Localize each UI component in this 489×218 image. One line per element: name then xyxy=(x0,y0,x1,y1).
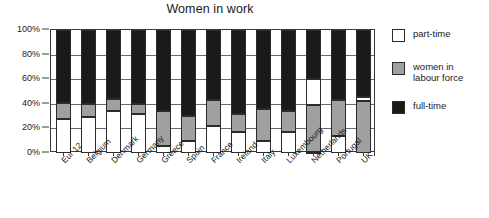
bar-segment[interactable] xyxy=(331,30,347,100)
y-tick-mark xyxy=(42,78,49,79)
bar-segment[interactable] xyxy=(181,30,197,116)
chart-container: Women in work 0%20%40%60%80%100% Eur 12B… xyxy=(0,0,489,218)
bar-segment[interactable] xyxy=(306,30,322,79)
x-tick-label: UK xyxy=(359,150,374,165)
bar-segment[interactable] xyxy=(81,104,97,118)
y-tick-mark xyxy=(42,53,49,54)
y-tick-mark xyxy=(42,127,49,128)
legend-label: full-time xyxy=(413,100,446,111)
bar-segment[interactable] xyxy=(106,30,122,99)
bar-segment[interactable] xyxy=(156,30,172,111)
bar-stack xyxy=(356,30,372,151)
bar-stack xyxy=(81,30,97,151)
legend-swatch-icon xyxy=(392,101,405,114)
legend-swatch-icon xyxy=(392,29,405,42)
y-tick-mark xyxy=(42,29,49,30)
bar-segment[interactable] xyxy=(131,30,147,104)
bar-stack xyxy=(181,30,197,151)
bar-group[interactable] xyxy=(106,30,122,151)
bar-group[interactable] xyxy=(281,30,297,151)
legend-item[interactable]: women in labour force xyxy=(392,61,463,83)
bar-segment[interactable] xyxy=(281,111,297,132)
bar-segment[interactable] xyxy=(256,30,272,109)
bar-segment[interactable] xyxy=(56,103,72,119)
bar-group[interactable] xyxy=(256,30,272,151)
bar-segment[interactable] xyxy=(131,104,147,114)
bar-group[interactable] xyxy=(56,30,72,151)
bar-segment[interactable] xyxy=(81,30,97,104)
bar-group[interactable] xyxy=(206,30,222,151)
bar-stack xyxy=(281,30,297,151)
bar-segment[interactable] xyxy=(281,30,297,111)
bar-stack xyxy=(106,30,122,151)
bar-segment[interactable] xyxy=(206,30,222,100)
legend-label: part-time xyxy=(413,28,450,39)
bar-segment[interactable] xyxy=(231,114,247,132)
bar-stack xyxy=(206,30,222,151)
bar-segment[interactable] xyxy=(181,116,197,141)
chart-title: Women in work xyxy=(60,2,360,16)
bar-segment[interactable] xyxy=(106,99,122,110)
y-tick-label: 100% xyxy=(17,24,40,34)
y-tick-label: 20% xyxy=(22,122,40,132)
y-tick-label: 40% xyxy=(22,98,40,108)
bar-segment[interactable] xyxy=(206,100,222,126)
legend-item[interactable]: part-time xyxy=(392,28,450,42)
y-tick-label: 80% xyxy=(22,49,40,59)
bar-stack xyxy=(231,30,247,151)
x-tick-mark xyxy=(374,152,375,156)
bar-group[interactable] xyxy=(81,30,97,151)
y-tick-mark xyxy=(42,152,49,153)
legend-swatch-icon xyxy=(392,62,405,75)
bar-group[interactable] xyxy=(231,30,247,151)
plot-area xyxy=(50,29,375,152)
bar-series-group xyxy=(51,30,374,151)
bar-segment[interactable] xyxy=(306,79,322,105)
y-tick-mark xyxy=(42,102,49,103)
y-tick-label: 0% xyxy=(27,147,40,157)
y-tick-label: 60% xyxy=(22,73,40,83)
x-axis: Eur 12BelgiumDenmarkGermanyGreeceSpainFr… xyxy=(50,152,375,218)
bar-segment[interactable] xyxy=(256,109,272,141)
bar-segment[interactable] xyxy=(356,30,372,97)
bar-segment[interactable] xyxy=(356,97,372,101)
legend-item[interactable]: full-time xyxy=(392,100,446,114)
bar-stack xyxy=(256,30,272,151)
y-axis: 0%20%40%60%80%100% xyxy=(0,29,50,152)
bar-segment[interactable] xyxy=(56,30,72,103)
bar-segment[interactable] xyxy=(231,30,247,114)
bar-group[interactable] xyxy=(181,30,197,151)
legend-label: women in labour force xyxy=(413,61,463,83)
bar-group[interactable] xyxy=(356,30,372,151)
bar-stack xyxy=(56,30,72,151)
